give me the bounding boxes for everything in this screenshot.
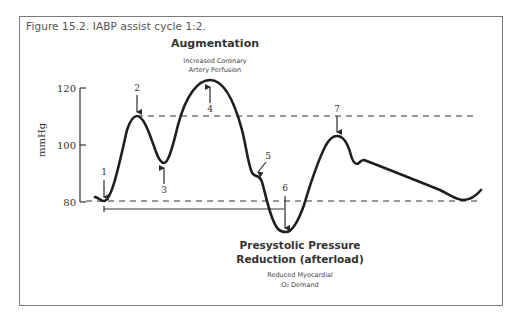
point-3-label: 3 xyxy=(161,185,167,195)
tick-80: 80 xyxy=(63,197,76,208)
point-4-label: 4 xyxy=(207,104,213,114)
point-5-marker: 5 xyxy=(258,151,271,172)
tick-120: 120 xyxy=(57,83,76,94)
point-4-marker: 4 xyxy=(207,87,213,114)
point-3-marker: 3 xyxy=(161,168,167,195)
y-axis: 120 100 80 mmHg xyxy=(36,83,86,208)
pressure-waveform-chart: 120 100 80 mmHg 1 2 3 4 5 6 7 xyxy=(0,0,518,324)
point-6-label: 6 xyxy=(282,183,288,193)
point-1-marker: 1 xyxy=(101,167,107,197)
point-7-marker: 7 xyxy=(334,104,340,132)
point-1-label: 1 xyxy=(101,167,107,177)
point-5-label: 5 xyxy=(265,151,271,161)
y-axis-label: mmHg xyxy=(36,122,47,157)
tick-100: 100 xyxy=(57,140,76,151)
point-6-marker: 6 xyxy=(282,183,288,228)
point-2-marker: 2 xyxy=(134,83,140,112)
point-7-label: 7 xyxy=(334,104,340,114)
point-2-label: 2 xyxy=(134,83,140,93)
cycle-bar xyxy=(104,206,284,212)
